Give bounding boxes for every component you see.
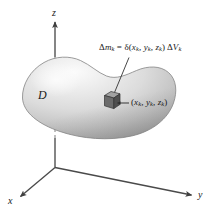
solid-region-label: D [38, 89, 47, 101]
sample-point-label: (xk, yk, zk) [131, 98, 167, 108]
horizontal-axes [21, 168, 192, 197]
mass-element-formula: Δmk = δ(xk, yk, zk) ΔVk [99, 43, 181, 53]
diagram-artwork [0, 0, 213, 216]
y-axis-label: y [198, 190, 202, 200]
y-axis [55, 168, 192, 196]
figure-canvas: z x y D Δmk = δ(xk, yk, zk) ΔVk (xk, yk,… [0, 0, 213, 216]
x-axis [21, 168, 56, 197]
formula-sub-k-5: k [178, 45, 181, 52]
formula-equals: = [114, 42, 124, 52]
point-close-paren: ) [164, 97, 167, 107]
mass-element-cube [105, 92, 121, 109]
formula-m: m [105, 42, 112, 52]
x-axis-label: x [8, 196, 12, 206]
z-axis-label: z [52, 8, 56, 18]
